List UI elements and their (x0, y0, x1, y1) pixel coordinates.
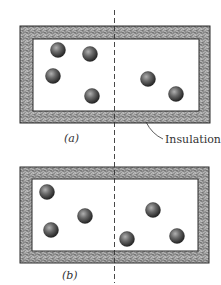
gas-particle (40, 185, 55, 200)
gas-particle (46, 69, 61, 84)
gas-particle (44, 223, 59, 238)
gas-particle (120, 232, 135, 247)
gas-particle (78, 209, 93, 224)
gas-particle (169, 87, 184, 102)
panel-a: (a) Insulation (20, 26, 221, 146)
gas-particle (85, 89, 100, 104)
insulation-leader-line (146, 122, 163, 139)
panel-label-b: (b) (62, 269, 78, 282)
gas-particle (170, 229, 185, 244)
gas-particle (146, 203, 161, 218)
gas-particle (51, 43, 66, 58)
thermal-expansion-diagram: (a) Insulation (b) (0, 0, 221, 285)
gas-particle (141, 72, 156, 87)
panel-label-a: (a) (64, 132, 79, 145)
gas-particle (83, 47, 98, 62)
insulation-label: Insulation (165, 133, 221, 146)
panel-b: (b) (20, 167, 209, 282)
